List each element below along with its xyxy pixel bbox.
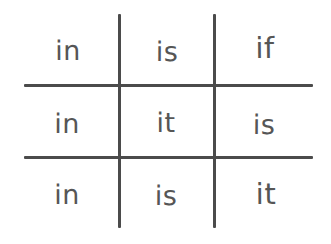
grid-vertical-line-1 xyxy=(118,14,121,228)
grid-cell-r2c1[interactable]: in xyxy=(19,95,115,151)
grid-cell-r1c1[interactable]: in xyxy=(20,22,116,79)
grid-horizontal-line-1 xyxy=(24,84,313,87)
grid-horizontal-line-2 xyxy=(24,156,313,159)
grid-cell-r3c1[interactable]: in xyxy=(19,166,115,222)
grid-cell-r1c2[interactable]: is xyxy=(123,23,211,79)
word-grid-canvas: in is if in it is in is it xyxy=(0,0,331,244)
grid-cell-r3c2[interactable]: is xyxy=(122,167,210,223)
grid-cell-r2c3[interactable]: is xyxy=(216,96,312,153)
grid-cell-r2c2[interactable]: it xyxy=(122,94,210,150)
grid-cell-r3c3[interactable]: it xyxy=(218,166,314,223)
grid-cell-r1c3[interactable]: if xyxy=(217,19,314,76)
